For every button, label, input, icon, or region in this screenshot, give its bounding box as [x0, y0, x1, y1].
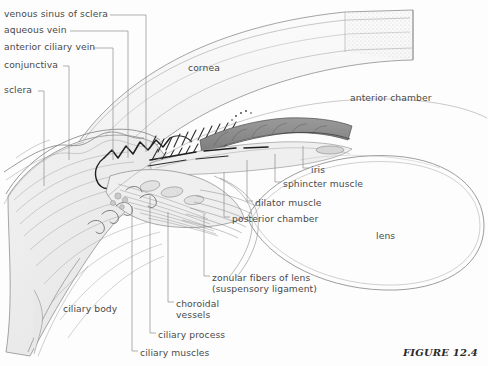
label-ciliary-body: ciliary body — [63, 304, 117, 315]
label-anterior-ciliary-vein: anterior ciliary vein — [4, 42, 95, 53]
eye-anatomy-figure: venous sinus of scleraaqueous veinanteri… — [0, 0, 488, 366]
label-ciliary-muscles: ciliary muscles — [140, 348, 209, 359]
label-dilator-muscle: dilator muscle — [255, 198, 322, 209]
label-ciliary-process: ciliary process — [158, 330, 225, 341]
label-anterior-chamber: anterior chamber — [350, 93, 432, 104]
label-cornea: cornea — [188, 63, 220, 74]
label-venous-sinus-of-sclera: venous sinus of sclera — [4, 9, 108, 20]
label-aqueous-vein: aqueous vein — [4, 25, 67, 36]
label-sclera: sclera — [4, 85, 32, 96]
label-zonular-fibers-of-lens: zonular fibers of lens (suspensory ligam… — [212, 273, 317, 294]
figure-caption: FIGURE 12.4 — [403, 347, 478, 358]
label-choroidal-vessels: choroidal vessels — [176, 299, 219, 320]
label-conjunctiva: conjunctiva — [4, 60, 58, 71]
label-iris: iris — [311, 165, 325, 176]
label-sphincter-muscle: sphincter muscle — [283, 179, 363, 190]
label-posterior-chamber: posterior chamber — [232, 214, 318, 225]
label-lens: lens — [376, 231, 395, 242]
